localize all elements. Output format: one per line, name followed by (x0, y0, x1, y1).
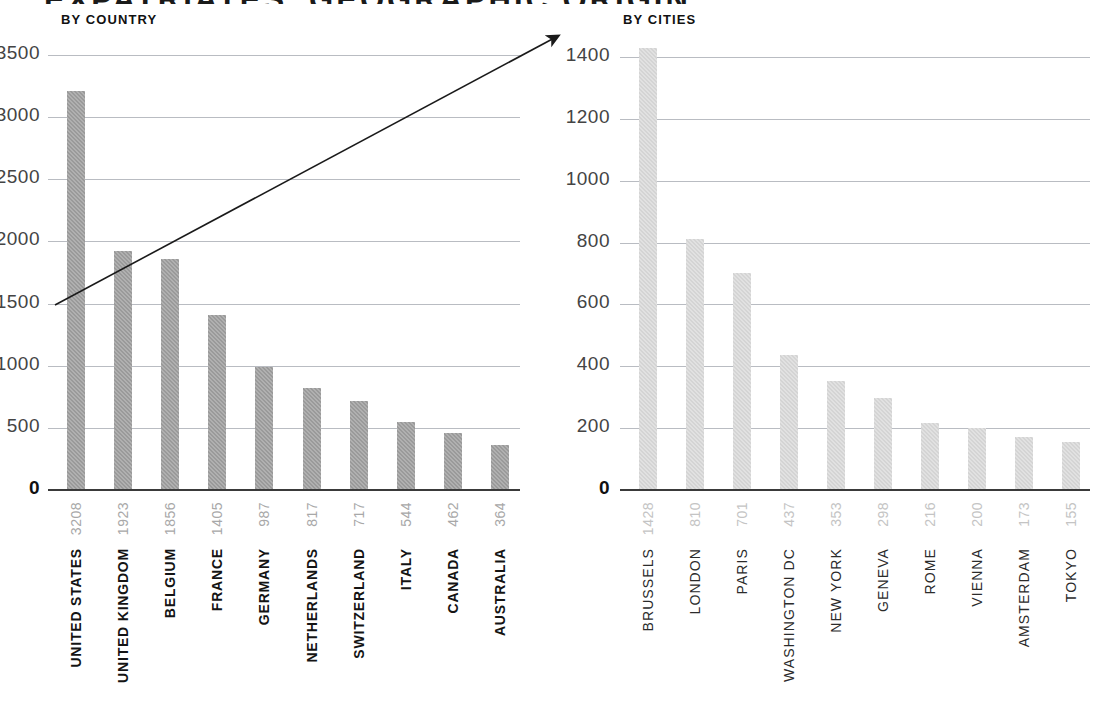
bar[interactable] (397, 422, 415, 490)
bar-value-label: 1856 (162, 502, 178, 535)
gridline (48, 117, 520, 118)
y-axis-tick-label: 2000 (0, 228, 40, 250)
x-axis-label-group: 987GERMANY (255, 496, 273, 701)
y-axis-tick-label: 3500 (0, 42, 40, 64)
bar[interactable] (1062, 442, 1080, 490)
bar-category-label: VIENNA (969, 548, 985, 607)
x-axis-label-group: 353NEW YORK (827, 496, 845, 701)
y-axis-tick-label: 1000 (0, 353, 40, 375)
bar-value-label: 1405 (209, 502, 225, 535)
x-axis-label-group: 1405FRANCE (208, 496, 226, 701)
bar[interactable] (444, 433, 462, 490)
bar-value-label: 1923 (115, 502, 131, 535)
x-axis-label-group: 1428BRUSSELS (639, 496, 657, 701)
bar-category-label: CANADA (445, 548, 461, 613)
y-axis-tick-label: 3000 (0, 104, 40, 126)
bar[interactable] (686, 239, 704, 490)
panel-subtitle-by-cities: BY CITIES (623, 12, 696, 27)
bar[interactable] (1015, 437, 1033, 491)
bar-category-label: UNITED STATES (68, 548, 84, 668)
bar-category-label: AMSTERDAM (1016, 548, 1032, 647)
y-axis-tick-label: 200 (577, 415, 610, 437)
bar[interactable] (303, 388, 321, 490)
bar-category-label: UNITED KINGDOM (115, 548, 131, 683)
bar[interactable] (921, 423, 939, 490)
bar-value-label: 810 (687, 502, 703, 527)
bar[interactable] (639, 48, 657, 490)
bar-value-label: 3208 (68, 502, 84, 535)
bar[interactable] (733, 273, 751, 490)
bar-value-label: 462 (445, 502, 461, 527)
bar-category-label: ROME (922, 548, 938, 594)
plot-area-by-country: 3500300025002000150010005000 (48, 55, 520, 490)
y-axis-tick-label: 2500 (0, 166, 40, 188)
bar-category-label: BELGIUM (162, 548, 178, 618)
bar-category-label: SWITZERLAND (351, 548, 367, 659)
bar-category-label: NEW YORK (828, 548, 844, 633)
gridline (48, 55, 520, 56)
panel-subtitle-by-country: BY COUNTRY (61, 12, 157, 27)
bar[interactable] (827, 381, 845, 490)
bar-category-label: BRUSSELS (640, 548, 656, 632)
bar-value-label: 1428 (640, 502, 656, 535)
bar-category-label: PARIS (734, 548, 750, 594)
gridline (620, 119, 1090, 120)
x-axis-line-by-country (48, 489, 520, 491)
bar[interactable] (67, 91, 85, 490)
bar-value-label: 544 (398, 502, 414, 527)
y-axis-tick-label: 1400 (566, 44, 610, 66)
bar-category-label: LONDON (687, 548, 703, 615)
x-axis-label-group: 173AMSTERDAM (1015, 496, 1033, 701)
x-axis-label-group: 216ROME (921, 496, 939, 701)
x-axis-label-group: 3208UNITED STATES (67, 496, 85, 701)
y-axis-tick-label: 500 (7, 415, 40, 437)
x-axis-labels-by-cities: 1428BRUSSELS810LONDON701PARIS437WASHINGT… (620, 496, 1090, 701)
bar-category-label: NETHERLANDS (304, 548, 320, 663)
bar-value-label: 717 (351, 502, 367, 527)
gridline (48, 179, 520, 180)
bar[interactable] (161, 259, 179, 490)
bar-value-label: 155 (1063, 502, 1079, 527)
y-axis-tick-label: 0 (29, 477, 40, 499)
bar[interactable] (491, 445, 509, 490)
x-axis-label-group: 364AUSTRALIA (491, 496, 509, 701)
plot-area-by-cities: 1400120010008006004002000 (620, 57, 1090, 490)
bar-value-label: 987 (256, 502, 272, 527)
bar-value-label: 298 (875, 502, 891, 527)
bar-value-label: 701 (734, 502, 750, 527)
bar[interactable] (780, 355, 798, 490)
x-axis-label-group: 298GENEVA (874, 496, 892, 701)
bar-value-label: 216 (922, 502, 938, 527)
gridline (48, 241, 520, 242)
bar[interactable] (968, 428, 986, 490)
x-axis-label-group: 717SWITZERLAND (350, 496, 368, 701)
bar[interactable] (350, 401, 368, 490)
bar-category-label: AUSTRALIA (492, 548, 508, 636)
bar-value-label: 817 (304, 502, 320, 527)
bar-value-label: 173 (1016, 502, 1032, 527)
y-axis-tick-label: 0 (599, 477, 610, 499)
bar-category-label: TOKYO (1063, 548, 1079, 602)
y-axis-tick-label: 1500 (0, 291, 40, 313)
bar[interactable] (114, 251, 132, 490)
gridline (620, 181, 1090, 182)
bar-category-label: ITALY (398, 548, 414, 590)
x-axis-label-group: 437WASHINGTON DC (780, 496, 798, 701)
bar-value-label: 353 (828, 502, 844, 527)
y-axis-tick-label: 1200 (566, 106, 610, 128)
x-axis-label-group: 155TOKYO (1062, 496, 1080, 701)
chart-panel-by-cities: BY CITIES 1400120010008006004002000 1428… (560, 0, 1097, 701)
bar[interactable] (874, 398, 892, 490)
x-axis-label-group: 462CANADA (444, 496, 462, 701)
x-axis-label-group: 1923UNITED KINGDOM (114, 496, 132, 701)
chart-panel-by-country: BY COUNTRY 3500300025002000150010005000 … (0, 0, 560, 701)
bar[interactable] (255, 367, 273, 490)
bar-value-label: 437 (781, 502, 797, 527)
x-axis-label-group: 200VIENNA (968, 496, 986, 701)
x-axis-label-group: 817NETHERLANDS (303, 496, 321, 701)
bar-value-label: 200 (969, 502, 985, 527)
y-axis-tick-label: 1000 (566, 168, 610, 190)
x-axis-label-group: 810LONDON (686, 496, 704, 701)
y-axis-tick-label: 800 (577, 230, 610, 252)
bar[interactable] (208, 315, 226, 490)
